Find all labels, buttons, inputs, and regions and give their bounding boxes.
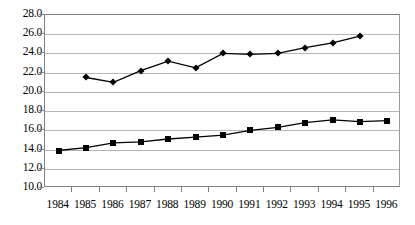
plot-area	[44, 14, 400, 187]
y-tick-label: 12.0	[2, 162, 42, 174]
x-tick-label: 1991	[238, 198, 260, 210]
x-tick-label: 1992	[266, 198, 288, 210]
x-tick-mark	[181, 187, 182, 192]
y-tick-label: 28.0	[2, 8, 42, 20]
line-chart: 10.012.014.016.018.020.022.024.026.028.0…	[0, 0, 415, 225]
data-point-marker	[219, 50, 226, 57]
data-point-marker	[110, 79, 117, 86]
x-tick-label: 1987	[129, 198, 151, 210]
x-tick-label: 1988	[156, 198, 178, 210]
data-point-marker	[247, 51, 254, 58]
x-tick-label: 1993	[293, 198, 315, 210]
data-point-marker	[192, 64, 199, 71]
data-point-marker	[275, 124, 281, 130]
data-point-marker	[138, 139, 144, 145]
y-tick-mark	[39, 187, 44, 188]
x-tick-mark	[126, 187, 127, 192]
x-tick-mark	[236, 187, 237, 192]
data-point-marker	[83, 74, 90, 81]
data-point-marker	[220, 132, 226, 138]
data-point-marker	[165, 136, 171, 142]
x-tick-label: 1995	[348, 198, 370, 210]
y-tick-label: 14.0	[2, 143, 42, 155]
series-line-upper-series	[86, 36, 360, 82]
x-tick-label: 1990	[211, 198, 233, 210]
y-tick-label: 24.0	[2, 46, 42, 58]
gridline	[45, 92, 399, 93]
x-tick-label: 1986	[101, 198, 123, 210]
data-point-marker	[357, 119, 363, 125]
data-point-marker	[274, 50, 281, 57]
data-point-marker	[384, 118, 390, 124]
x-tick-mark	[99, 187, 100, 192]
data-point-marker	[330, 117, 336, 123]
x-tick-mark	[154, 187, 155, 192]
x-tick-label: 1994	[320, 198, 342, 210]
y-tick-label: 18.0	[2, 104, 42, 116]
y-tick-label: 22.0	[2, 66, 42, 78]
data-point-marker	[56, 148, 62, 154]
x-tick-mark	[263, 187, 264, 192]
gridline	[45, 150, 399, 151]
y-axis: 10.012.014.016.018.020.022.024.026.028.0	[0, 0, 42, 225]
gridline	[45, 34, 399, 35]
x-tick-mark	[373, 187, 374, 192]
x-tick-mark	[318, 187, 319, 192]
x-tick-mark	[290, 187, 291, 192]
data-point-marker	[83, 145, 89, 151]
x-tick-mark	[71, 187, 72, 192]
y-tick-label: 10.0	[2, 181, 42, 193]
y-tick-label: 20.0	[2, 85, 42, 97]
x-tick-label: 1996	[375, 198, 397, 210]
data-point-marker	[302, 120, 308, 126]
gridline	[45, 73, 399, 74]
x-tick-label: 1989	[184, 198, 206, 210]
data-point-marker	[165, 58, 172, 65]
gridline	[45, 169, 399, 170]
x-tick-label: 1984	[47, 198, 69, 210]
y-tick-label: 16.0	[2, 123, 42, 135]
data-point-marker	[110, 140, 116, 146]
data-point-marker	[329, 39, 336, 46]
x-axis: 1984198519861987198819891990199119921993…	[44, 198, 400, 218]
x-tick-mark	[345, 187, 346, 192]
gridline	[45, 111, 399, 112]
gridline	[45, 130, 399, 131]
data-point-marker	[247, 127, 253, 133]
x-tick-label: 1985	[74, 198, 96, 210]
x-tick-mark	[208, 187, 209, 192]
y-tick-label: 26.0	[2, 27, 42, 39]
series-lines	[45, 15, 401, 188]
data-point-marker	[193, 134, 199, 140]
data-point-marker	[302, 44, 309, 51]
